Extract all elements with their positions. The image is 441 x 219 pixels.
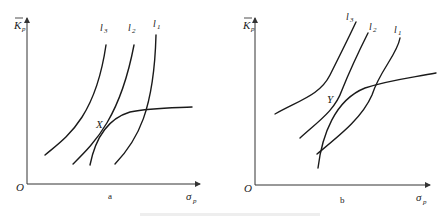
panel-b: K p O σ p b l 3 l 2 l 1 Y (242, 11, 436, 206)
label-l2-sub: 2 (373, 26, 377, 34)
label-l3-sub: 3 (103, 27, 108, 35)
origin-label: O (244, 182, 252, 194)
y-axis-subscript: p (250, 25, 255, 33)
label-l3: l (346, 11, 349, 22)
label-l1: l (394, 24, 397, 35)
label-l2: l (128, 22, 131, 33)
origin-label: O (16, 181, 24, 193)
label-l2: l (369, 21, 372, 32)
label-l1-sub: 1 (157, 23, 161, 31)
curve-supply (90, 107, 192, 165)
label-l3-sub: 3 (349, 16, 354, 24)
x-axis-label: σ (416, 191, 422, 203)
panel-a: K p O σ p a l 3 l 2 l 1 X (13, 18, 200, 205)
label-l3: l (100, 22, 103, 33)
point-y-label: Y (327, 93, 335, 105)
curve-supply (318, 73, 436, 168)
label-l2-sub: 2 (132, 27, 136, 35)
label-l1-sub: 1 (398, 29, 402, 37)
x-axis-subscript: p (192, 197, 197, 205)
panel-label: b (340, 195, 345, 205)
curve-l3 (275, 22, 356, 114)
y-axis-label: K (13, 19, 22, 31)
y-axis-subscript: p (21, 25, 26, 33)
panel-label: a (108, 191, 112, 201)
x-axis-label: σ (186, 190, 192, 202)
diagram-canvas: K p O σ p a l 3 l 2 l 1 X K p O σ p b l … (0, 0, 441, 219)
curve-l1 (115, 35, 156, 164)
x-axis-subscript: p (422, 198, 427, 206)
y-axis-label: K (242, 19, 251, 31)
curve-l2 (300, 33, 368, 138)
label-l1: l (153, 18, 156, 29)
point-x-label: X (95, 118, 104, 130)
faded-caption (140, 213, 320, 216)
